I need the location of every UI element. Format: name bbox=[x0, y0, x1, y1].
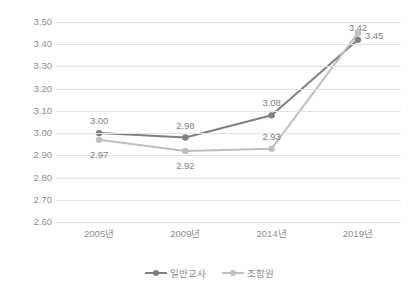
legend-label: 조합원 bbox=[247, 266, 274, 280]
x-tick-label: 2019년 bbox=[343, 228, 373, 240]
y-tick-label: 2.70 bbox=[12, 195, 52, 205]
y-tick-label: 3.10 bbox=[12, 106, 52, 116]
data-point-marker bbox=[96, 137, 102, 143]
gridline bbox=[56, 44, 401, 45]
legend-item-2[interactable]: 조합원 bbox=[222, 266, 274, 280]
data-label: 3.45 bbox=[365, 30, 384, 41]
y-axis: 3.503.403.303.203.103.002.902.802.702.60 bbox=[8, 22, 52, 222]
gridline bbox=[56, 200, 401, 201]
y-tick-label: 3.50 bbox=[12, 17, 52, 27]
y-tick-label: 2.80 bbox=[12, 173, 52, 183]
y-tick-label: 3.30 bbox=[12, 61, 52, 71]
legend-marker-icon bbox=[145, 268, 167, 278]
x-tick-label: 2009년 bbox=[170, 228, 200, 240]
data-label: 2.92 bbox=[176, 159, 195, 170]
gridline bbox=[56, 89, 401, 90]
plot-area: 3.002.983.083.422.972.922.933.45 bbox=[56, 22, 401, 222]
x-tick-label: 2005년 bbox=[84, 228, 114, 240]
data-point-marker bbox=[268, 145, 274, 151]
legend-label: 일반교사 bbox=[170, 266, 206, 280]
data-point-marker bbox=[268, 112, 274, 118]
data-label: 3.00 bbox=[90, 115, 109, 126]
y-tick-label: 2.90 bbox=[12, 150, 52, 160]
data-label: 2.97 bbox=[90, 148, 109, 159]
y-tick-label: 3.40 bbox=[12, 39, 52, 49]
data-label: 2.98 bbox=[176, 119, 195, 130]
chart-legend: 일반교사조합원 bbox=[0, 266, 419, 280]
data-label: 3.08 bbox=[262, 97, 281, 108]
y-tick-label: 2.60 bbox=[12, 217, 52, 227]
data-label: 2.93 bbox=[262, 130, 281, 141]
data-point-marker bbox=[182, 148, 188, 154]
legend-item-1[interactable]: 일반교사 bbox=[145, 266, 206, 280]
line-chart: 3.503.403.303.203.103.002.902.802.702.60… bbox=[0, 0, 419, 294]
x-tick-label: 2014년 bbox=[257, 228, 287, 240]
data-point-marker bbox=[182, 134, 188, 140]
gridline bbox=[56, 133, 401, 134]
y-tick-label: 3.20 bbox=[12, 84, 52, 94]
y-tick-label: 3.00 bbox=[12, 128, 52, 138]
x-axis: 2005년2009년2014년2019년 bbox=[56, 228, 401, 244]
gridline bbox=[56, 178, 401, 179]
gridline bbox=[56, 66, 401, 67]
legend-marker-icon bbox=[222, 268, 244, 278]
gridline bbox=[56, 222, 401, 223]
gridline bbox=[56, 111, 401, 112]
